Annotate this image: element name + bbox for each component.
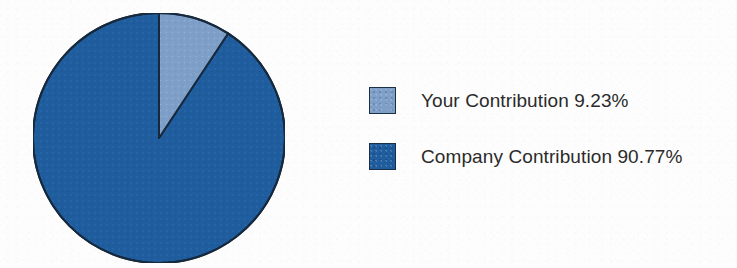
legend-item-your-contribution: Your Contribution 9.23% xyxy=(369,72,729,128)
legend-item-company-contribution: Company Contribution 90.77% xyxy=(369,128,729,184)
legend-swatch-company-contribution xyxy=(369,143,396,170)
legend-swatch-your-contribution xyxy=(369,87,396,114)
pie-chart-svg xyxy=(33,13,285,263)
pie-chart xyxy=(33,13,285,263)
chart-legend: Your Contribution 9.23% Company Contribu… xyxy=(369,72,729,184)
legend-label-your-contribution: Your Contribution 9.23% xyxy=(421,91,629,110)
legend-label-company-contribution: Company Contribution 90.77% xyxy=(421,147,682,166)
pie-chart-figure: Your Contribution 9.23% Company Contribu… xyxy=(0,0,737,268)
